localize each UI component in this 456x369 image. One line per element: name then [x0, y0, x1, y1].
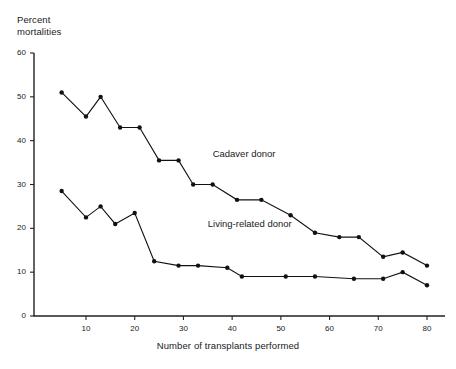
data-point	[84, 215, 88, 219]
data-point	[157, 158, 161, 162]
data-point	[357, 235, 361, 239]
y-tick-label: 20	[6, 223, 26, 232]
x-tick-label: 10	[74, 324, 98, 333]
y-tick-label: 10	[6, 267, 26, 276]
data-point	[98, 204, 102, 208]
data-point	[133, 211, 137, 215]
data-point	[313, 231, 317, 235]
series-line-1	[62, 92, 427, 265]
data-point	[425, 263, 429, 267]
data-point	[137, 125, 141, 129]
data-point	[259, 198, 263, 202]
data-point	[400, 250, 404, 254]
chart-figure: Percent mortalities Number of transplant…	[0, 0, 456, 369]
series-label-cadaver-donor: Cadaver donor	[213, 148, 276, 159]
data-point	[191, 182, 195, 186]
data-point	[284, 274, 288, 278]
data-point	[196, 263, 200, 267]
data-point	[176, 158, 180, 162]
data-point	[381, 277, 385, 281]
data-point	[425, 283, 429, 287]
data-point	[400, 270, 404, 274]
data-point	[152, 259, 156, 263]
x-tick-label: 40	[220, 324, 244, 333]
data-point	[235, 198, 239, 202]
x-tick-label: 30	[171, 324, 195, 333]
data-point	[59, 189, 63, 193]
data-point	[98, 95, 102, 99]
x-tick-label: 60	[318, 324, 342, 333]
data-point	[113, 222, 117, 226]
data-point	[337, 235, 341, 239]
data-point	[240, 274, 244, 278]
series-label-living-related-donor: Living-related donor	[208, 218, 292, 229]
data-point	[381, 255, 385, 259]
data-point	[118, 125, 122, 129]
series-line-2	[62, 191, 427, 285]
x-tick-label: 50	[269, 324, 293, 333]
x-tick-label: 20	[123, 324, 147, 333]
y-tick-label: 30	[6, 180, 26, 189]
y-tick-label: 60	[6, 48, 26, 57]
data-point	[225, 266, 229, 270]
y-tick-label: 50	[6, 92, 26, 101]
data-point	[288, 213, 292, 217]
x-tick-label: 80	[415, 324, 439, 333]
y-tick-label: 0	[6, 311, 26, 320]
plot-area	[0, 0, 456, 369]
data-point	[176, 263, 180, 267]
data-point	[59, 90, 63, 94]
x-tick-label: 70	[366, 324, 390, 333]
data-point	[210, 182, 214, 186]
data-point	[84, 114, 88, 118]
data-point	[352, 277, 356, 281]
data-point	[313, 274, 317, 278]
y-tick-label: 40	[6, 136, 26, 145]
